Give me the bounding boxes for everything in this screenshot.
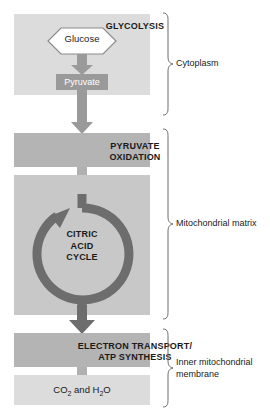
products-h2o-text: O [103, 384, 110, 395]
arrow-cycle-to-electron-transport [68, 305, 96, 335]
pyruvate-label: Pyruvate [56, 77, 108, 88]
compartment-label-cytoplasm: Cytoplasm [176, 58, 219, 70]
electron-transport-line1: ELECTRON TRANSPORT/ [78, 341, 192, 351]
glucose-label: Glucose [47, 33, 117, 45]
bracket-inner-mitochondrial-membrane [160, 328, 174, 408]
compartment-label-inner-mitochondrial-membrane: Inner mitochondrial membrane [176, 357, 253, 380]
pyruvate-oxidation-title: PYRUVATEOXIDATION [0, 141, 270, 163]
arrow-glucose-to-pyruvate [70, 54, 94, 76]
citric-acid-cycle-title: CITRICACIDCYCLE [14, 229, 150, 264]
pyruvate-oxidation-line2: OXIDATION [109, 152, 160, 162]
pyruvate-oxidation-line1: PYRUVATE [110, 141, 159, 151]
bracket-cytoplasm [160, 12, 174, 116]
glycolysis-title: GLYCOLYSIS [0, 21, 270, 32]
compartment-label-mitochondrial-matrix: Mitochondrial matrix [176, 218, 257, 230]
bracket-mitochondrial-matrix [160, 128, 174, 320]
citric-line3: CYCLE [66, 252, 98, 262]
arrow-pyruvate-to-oxidation [70, 90, 94, 135]
products-co2-text: CO [53, 384, 67, 395]
citric-line1: CITRIC [66, 229, 97, 239]
citric-line2: ACID [71, 241, 94, 251]
products-label: CO2 and H2O [14, 384, 150, 400]
products-conjunction: and H [71, 384, 99, 395]
cellular-respiration-diagram: GLYCOLYSIS Glucose Pyruvate PYRUVATEOXID… [0, 0, 270, 410]
